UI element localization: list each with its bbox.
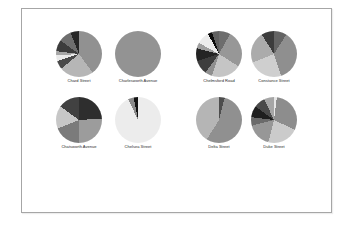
pie-label: Chelsea Street bbox=[125, 145, 152, 150]
pie-chart-chatsworth-avenue: Chatsworth Avenue bbox=[56, 97, 102, 143]
pie-chart-chelsea-street: Chelsea Street bbox=[115, 97, 161, 143]
pie-chart-duke-street: Duke Street bbox=[251, 97, 297, 143]
pie-circle bbox=[251, 97, 297, 143]
pie-label: Chard Street bbox=[67, 79, 90, 84]
pie-label: Chatsworth Avenue bbox=[61, 145, 96, 150]
pie-circle bbox=[56, 31, 102, 77]
pie-circle bbox=[115, 97, 161, 143]
figure-page-frame: Chard Street Charlesworth Avenue Chelmsf… bbox=[21, 8, 332, 213]
pie-chart-chelmsford-road: Chelmsford Road bbox=[196, 31, 242, 77]
screenshot-canvas: Chard Street Charlesworth Avenue Chelmsf… bbox=[0, 0, 345, 225]
pie-chart-chard-street: Chard Street bbox=[56, 31, 102, 77]
pie-circle bbox=[196, 97, 242, 143]
pie-chart-constance-street: Constance Street bbox=[251, 31, 297, 77]
pie-circle bbox=[56, 97, 102, 143]
pie-circle bbox=[115, 31, 161, 77]
pie-label: Delta Street bbox=[208, 145, 229, 150]
pie-circle bbox=[196, 31, 242, 77]
pie-label: Constance Street bbox=[258, 79, 289, 84]
pie-circle bbox=[251, 31, 297, 77]
pie-chart-delta-street: Delta Street bbox=[196, 97, 242, 143]
pie-chart-charlesworth-avenue: Charlesworth Avenue bbox=[115, 31, 161, 77]
pie-label: Duke Street bbox=[263, 145, 284, 150]
pie-label: Chelmsford Road bbox=[203, 79, 235, 84]
pie-label: Charlesworth Avenue bbox=[119, 79, 158, 84]
